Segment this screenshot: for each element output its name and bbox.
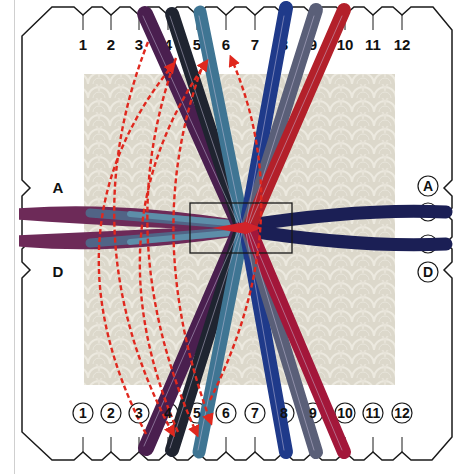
left-slot-labels: A D [53,179,64,280]
bottom-slot-7: 7 [251,405,259,421]
bottom-slot-10: 10 [337,405,353,421]
top-slot-2: 2 [107,36,115,53]
bottom-slot-circles [73,403,412,423]
top-slot-11: 11 [365,36,381,53]
right-slot-labels: A D [423,178,433,280]
bottom-slot-9: 9 [309,405,317,421]
top-slot-ticks [83,15,402,30]
bottom-slot-8: 8 [280,405,288,421]
bottom-slot-ticks [83,437,402,452]
bottom-slot-3: 3 [135,405,143,421]
bottom-slot-11: 11 [366,405,381,421]
bottom-slot-5: 5 [193,405,201,421]
right-slot-A: A [423,178,433,194]
right-slot-D: D [423,264,433,280]
left-slot-A: A [53,179,64,196]
left-slot-D: D [53,263,64,280]
top-slot-6: 6 [222,36,230,53]
bottom-slot-4: 4 [164,405,172,421]
top-slot-12: 12 [394,36,411,53]
braiding-disk-diagram: 1 2 3 4 5 6 7 8 9 10 11 12 A D [0,0,466,474]
top-slot-3: 3 [135,36,143,53]
bottom-slot-2: 2 [107,405,115,421]
top-slot-labels: 1 2 3 4 5 6 7 8 9 10 11 12 [79,36,411,53]
bottom-slot-6: 6 [222,405,230,421]
top-slot-7: 7 [251,36,259,53]
bottom-slot-1: 1 [79,405,87,421]
top-slot-1: 1 [79,36,87,53]
bottom-slot-12: 12 [394,405,410,421]
